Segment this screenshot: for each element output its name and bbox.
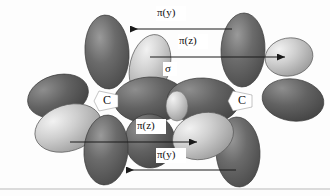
label-sigma-text: σ (165, 62, 171, 74)
lobe-pi-y-top-right (220, 12, 267, 87)
lobe-pi-y-top-left (82, 14, 131, 91)
label-pi-z-top-text: π(z) (179, 34, 197, 46)
label-pi-y-top-text: π(y) (157, 6, 175, 18)
label-pi-y-bottom-text: π(y) (157, 148, 175, 160)
label-pi-z-bottom: π(z) (137, 120, 155, 131)
label-sigma: σ (165, 63, 171, 74)
orbital-figure: π(y) π(z) σ π(z) π(y) C C (0, 0, 330, 196)
lobe-pi-y-right-outer (259, 75, 326, 125)
label-pi-z-top: π(z) (179, 35, 197, 46)
label-pi-z-bottom-text: π(z) (137, 119, 155, 131)
atom-label-carbon-right: C (238, 94, 246, 106)
label-pi-y-top: π(y) (157, 7, 175, 18)
atom-label-carbon-left: C (103, 94, 111, 106)
lobe-sigma-overlap (166, 91, 188, 121)
orbital-canvas (0, 0, 330, 196)
label-pi-y-bottom: π(y) (157, 149, 175, 160)
